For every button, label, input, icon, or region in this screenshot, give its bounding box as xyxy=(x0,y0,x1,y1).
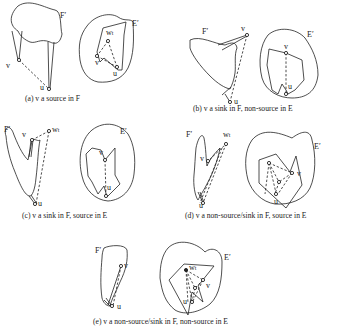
panel-b-E-label: E′ xyxy=(307,31,314,39)
panel-a-F-u-label: u xyxy=(40,84,44,92)
panel-b-F-region xyxy=(190,33,249,103)
panel-c-E-label: E′ xyxy=(120,128,127,136)
panel-c-F-u-label: u xyxy=(38,200,42,208)
panel-e-E-region xyxy=(160,242,222,315)
panel-a-E-label: E′ xyxy=(132,20,139,28)
panel-e-caption: (e) v a non-source/sink in F, non-source… xyxy=(93,318,228,326)
panel-a-E-u-label: u xyxy=(113,70,117,78)
panel-e-E-u-label: u xyxy=(183,298,187,306)
panel-c-F-region xyxy=(5,127,50,205)
panel-a-E-w-label: wt xyxy=(106,29,113,37)
panel-d-E-label: E′ xyxy=(314,143,321,151)
panel-e-F-label: F′ xyxy=(95,247,101,255)
panel-e-E-label: E′ xyxy=(224,254,231,262)
panel-a-F-v-label: v xyxy=(6,62,10,70)
panel-b-F-v-label: v xyxy=(241,25,245,33)
panel-c-F-w-label: wt xyxy=(52,126,59,134)
panel-d-F-label: F′ xyxy=(186,131,192,139)
panel-d-E-region xyxy=(246,132,315,208)
panel-b-E-u-label: u xyxy=(288,83,292,91)
panel-c-E-u-label: u xyxy=(107,184,111,192)
panel-e-F-u-label: u xyxy=(117,303,121,311)
panel-e-E-w-label: wt xyxy=(189,264,196,272)
panel-d-E-u-label: u xyxy=(274,198,278,206)
panel-a-E-v-label: v xyxy=(95,59,99,67)
panel-a-E-region xyxy=(79,15,133,83)
panel-b-E-v-label: v xyxy=(284,43,288,51)
panel-a-F-region xyxy=(11,3,62,91)
panel-c-F-label: F′ xyxy=(4,126,10,134)
panel-c-caption: (c) v a sink in F, source in E xyxy=(22,212,107,220)
panel-a-caption: (a) v a source in F xyxy=(25,95,80,103)
panel-b-caption: (b) v a sink in F, non-source in E xyxy=(193,105,293,113)
panel-d-F-region xyxy=(194,136,228,205)
panel-e-F-region xyxy=(101,246,127,308)
panel-e-F-v-label: v xyxy=(124,262,128,270)
panel-c-F-v-label: v xyxy=(22,131,26,139)
panel-d-E-v-label: v xyxy=(297,170,301,178)
panel-e-E-v-label: v xyxy=(206,282,210,290)
panel-c-E-v-label: v xyxy=(99,149,103,157)
panel-d-F-w-label: wt xyxy=(223,131,230,139)
panel-a-F-label: F′ xyxy=(60,12,66,20)
panel-d-F-u-label: u xyxy=(199,202,203,210)
panel-d-F-v-label: v xyxy=(200,155,204,163)
panel-b-F-label: F′ xyxy=(202,28,208,36)
panel-d-caption: (d) v a non-source/sink in F, source in … xyxy=(185,212,307,220)
